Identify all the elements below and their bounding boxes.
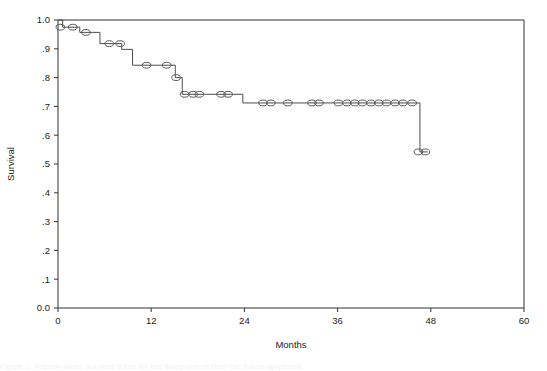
x-axis-title: Months bbox=[275, 339, 306, 350]
x-axis-ticks: 01224364860 bbox=[55, 308, 529, 326]
y-tick-label: 0.0 bbox=[37, 302, 50, 313]
x-tick-label: 48 bbox=[426, 315, 437, 326]
survival-figure: 0.0.1.2.3.4.5.6.7.8.91.0 01224364860 Sur… bbox=[0, 0, 547, 371]
y-tick-label: .4 bbox=[42, 187, 50, 198]
survival-curve-group bbox=[58, 20, 428, 152]
x-tick-label: 12 bbox=[146, 315, 157, 326]
y-tick-label: .8 bbox=[42, 72, 50, 83]
y-tick-label: 1.0 bbox=[37, 14, 50, 25]
x-tick-label: 0 bbox=[55, 315, 60, 326]
x-tick-label: 60 bbox=[519, 315, 530, 326]
y-tick-label: .6 bbox=[42, 130, 50, 141]
y-tick-label: .2 bbox=[42, 245, 50, 256]
y-tick-label: .9 bbox=[42, 43, 50, 54]
y-tick-label: .1 bbox=[42, 274, 50, 285]
x-tick-label: 24 bbox=[239, 315, 250, 326]
x-tick-label: 36 bbox=[332, 315, 343, 326]
y-tick-label: .3 bbox=[42, 216, 50, 227]
kaplan-meier-chart: 0.0.1.2.3.4.5.6.7.8.91.0 01224364860 Sur… bbox=[0, 0, 547, 371]
plot-frame bbox=[58, 20, 524, 308]
survival-step-line bbox=[58, 20, 428, 152]
y-tick-label: .5 bbox=[42, 158, 50, 169]
y-axis-ticks: 0.0.1.2.3.4.5.6.7.8.91.0 bbox=[37, 14, 58, 313]
y-axis-title: Survival bbox=[5, 147, 16, 181]
figure-caption: Figure 2. Kaplan-Meier survival curve fo… bbox=[0, 362, 547, 371]
y-tick-label: .7 bbox=[42, 101, 50, 112]
